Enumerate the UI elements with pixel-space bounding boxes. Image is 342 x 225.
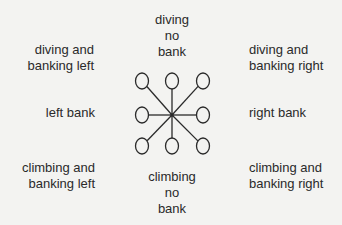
spoke-climbing-banking-right bbox=[172, 115, 198, 141]
node-left-bank bbox=[136, 107, 149, 123]
node-diving-banking-left bbox=[136, 73, 149, 89]
attitude-star-diagram bbox=[0, 0, 342, 225]
node-climbing-banking-left bbox=[136, 138, 149, 154]
spoke-climbing-banking-left bbox=[147, 115, 172, 141]
node-climbing-no-bank bbox=[166, 138, 179, 154]
spoke-diving-banking-left bbox=[147, 87, 172, 115]
node-right-bank bbox=[197, 107, 210, 123]
node-diving-no-bank bbox=[166, 73, 179, 89]
spoke-diving-banking-right bbox=[172, 86, 198, 115]
node-climbing-banking-right bbox=[197, 138, 210, 154]
hub-point bbox=[170, 113, 174, 117]
node-diving-banking-right bbox=[197, 73, 210, 89]
